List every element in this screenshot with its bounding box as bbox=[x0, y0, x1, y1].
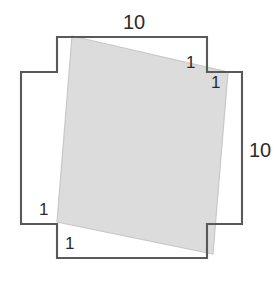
geometry-figure: 10 10 1 1 1 1 bbox=[0, 0, 278, 284]
dimension-label-bottom-left-upper-step: 1 bbox=[39, 201, 48, 218]
dimension-label-right-height: 10 bbox=[249, 140, 271, 160]
inscribed-tilted-square bbox=[57, 36, 228, 254]
dimension-label-top-right-outer-step: 1 bbox=[186, 54, 195, 71]
figure-canvas bbox=[0, 0, 278, 284]
dimension-label-top-width: 10 bbox=[123, 12, 145, 32]
dimension-label-bottom-left-lower-step: 1 bbox=[65, 235, 74, 252]
dimension-label-top-right-inner-step: 1 bbox=[211, 74, 220, 91]
